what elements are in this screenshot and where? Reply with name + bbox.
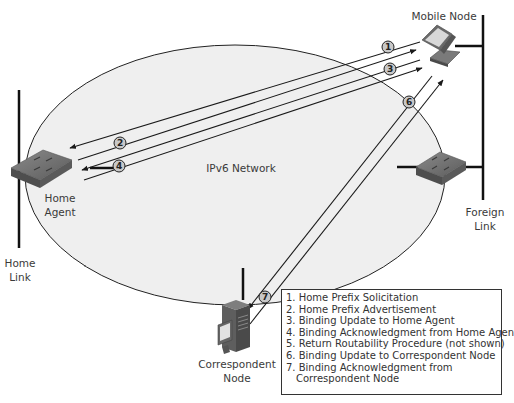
legend-item-2: 2. Home Prefix Advertisement <box>286 304 497 316</box>
home-link-label-line2: Link <box>0 270 40 284</box>
legend-item-7-continued: Correspondent Node <box>286 373 497 385</box>
correspondent-node-label: Correspondent Node <box>192 357 282 385</box>
step-marker-6-text: 6 <box>406 97 412 107</box>
step-marker-3-text: 3 <box>387 64 393 74</box>
stray-dot <box>84 265 86 267</box>
home-link-label-line1: Home <box>0 256 40 270</box>
home-link-label: Home Link <box>0 256 40 284</box>
legend-item-6: 6. Binding Update to Correspondent Node <box>286 350 497 362</box>
legend-item-7: 7. Binding Acknowledgment from <box>286 362 497 374</box>
correspondent-node-server-icon <box>218 300 250 354</box>
home-agent-label: Home Agent <box>33 191 87 219</box>
correspondent-node-label-line1: Correspondent <box>192 357 282 371</box>
step-marker-6: 6 <box>403 96 415 108</box>
legend-box: 1. Home Prefix Solicitation 2. Home Pref… <box>281 289 502 395</box>
home-agent-label-line2: Agent <box>33 205 87 219</box>
step-marker-7: 7 <box>259 291 271 303</box>
foreign-link-label-line1: Foreign <box>462 205 508 219</box>
step-marker-1-text: 1 <box>385 42 391 52</box>
foreign-link-label-line2: Link <box>462 219 508 233</box>
step-marker-4: 4 <box>113 160 125 172</box>
step-marker-7-text: 7 <box>262 292 268 302</box>
step-marker-3: 3 <box>384 63 396 75</box>
step-marker-2-text: 2 <box>117 138 123 148</box>
home-agent-label-line1: Home <box>33 191 87 205</box>
ipv6-network-ellipse <box>25 45 445 305</box>
correspondent-node-label-line2: Node <box>192 371 282 385</box>
step-marker-4-text: 4 <box>116 161 122 171</box>
step-marker-2: 2 <box>114 137 126 149</box>
legend-item-3: 3. Binding Update to Home Agent <box>286 315 497 327</box>
legend-item-4: 4. Binding Acknowledgment from Home Agen… <box>286 327 497 339</box>
foreign-link-label: Foreign Link <box>462 205 508 233</box>
step-marker-1: 1 <box>382 41 394 53</box>
mobile-node-laptop-icon <box>422 25 460 67</box>
ipv6-network-label: IPv6 Network <box>196 161 286 175</box>
mobile-node-label: Mobile Node <box>404 9 484 23</box>
legend-item-1: 1. Home Prefix Solicitation <box>286 292 497 304</box>
legend-item-5: 5. Return Routability Procedure (not sho… <box>286 338 497 350</box>
